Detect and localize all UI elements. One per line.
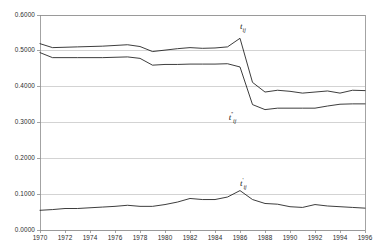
series-label-t_ij_prime: t'ij <box>240 177 247 190</box>
series-label-subscript: ij <box>233 118 236 124</box>
series-label-subscript: ij <box>243 27 246 33</box>
series-line-t_ij_prime <box>40 191 365 211</box>
chart-plot-area <box>0 0 379 246</box>
data-series-lines <box>40 38 365 210</box>
y-tick-label: 0.5000 <box>15 47 35 53</box>
series-line-t_ij_double_prime <box>40 53 365 110</box>
chart-container: 0.00000.10000.20000.30000.40000.50000.60… <box>0 0 379 246</box>
y-tick-label: 0.6000 <box>15 12 35 18</box>
gridlines <box>40 15 365 230</box>
series-label-superscript: ' <box>243 177 244 183</box>
y-tick-label: 0.2000 <box>15 155 35 161</box>
y-tick-label: 0.0000 <box>15 227 35 233</box>
series-line-t_ij <box>40 38 365 93</box>
x-tick-label: 1996 <box>350 235 379 241</box>
y-tick-label: 0.4000 <box>15 83 35 89</box>
y-tick-label: 0.1000 <box>15 191 35 197</box>
series-label-superscript: '' <box>231 111 233 117</box>
series-label-t_ij: tij <box>240 22 246 33</box>
x-tick-marks <box>40 230 365 233</box>
y-tick-marks <box>37 15 41 230</box>
y-tick-label: 0.3000 <box>15 119 35 125</box>
series-label-t_ij_double_prime: t''ij <box>229 111 237 124</box>
series-label-subscript: ij <box>243 183 246 189</box>
